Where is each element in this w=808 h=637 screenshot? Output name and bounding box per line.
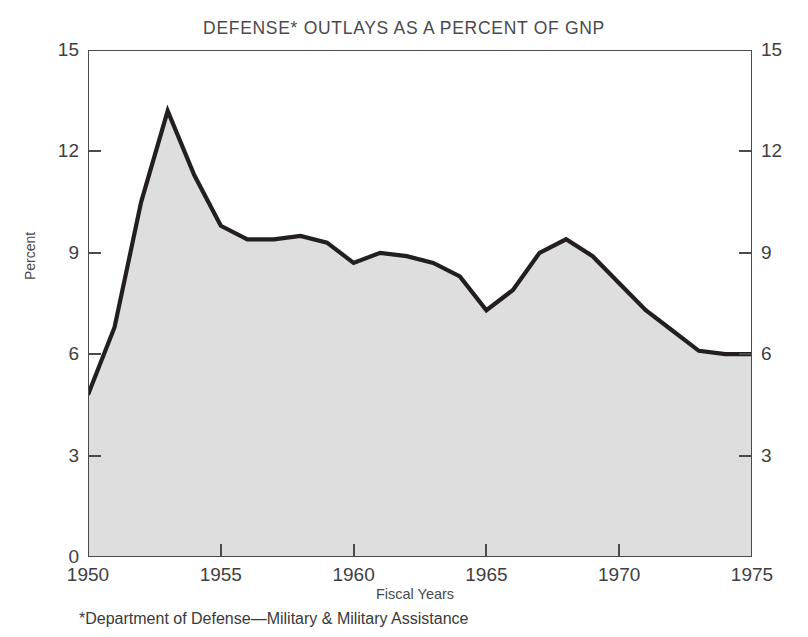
chart-title: DEFENSE* OUTLAYS AS A PERCENT OF GNP bbox=[0, 18, 808, 39]
y-axis-label-right: 3 bbox=[761, 445, 772, 467]
area-series-plot bbox=[88, 50, 752, 557]
plot-area: 03691215 3691215 19501955196019651970197… bbox=[88, 50, 752, 557]
x-axis-label: 1960 bbox=[332, 564, 374, 586]
x-axis-title: Fiscal Years bbox=[0, 586, 808, 602]
x-tick-1955 bbox=[220, 544, 222, 557]
y-tick-left-3 bbox=[88, 455, 101, 457]
y-axis-label-left: 15 bbox=[58, 39, 79, 61]
y-axis-label-left: 3 bbox=[68, 445, 79, 467]
y-tick-left-12 bbox=[88, 150, 101, 152]
x-tick-1970 bbox=[618, 544, 620, 557]
y-axis-label-right: 12 bbox=[761, 140, 782, 162]
area-fill-region bbox=[88, 111, 752, 557]
x-tick-1960 bbox=[353, 544, 355, 557]
x-axis-label: 1965 bbox=[465, 564, 507, 586]
x-axis-label: 1975 bbox=[731, 564, 773, 586]
chart-figure: DEFENSE* OUTLAYS AS A PERCENT OF GNP 036… bbox=[0, 0, 808, 637]
y-tick-right-3 bbox=[739, 455, 752, 457]
chart-footnote: *Department of Defense—Military & Milita… bbox=[79, 610, 468, 628]
y-tick-left-6 bbox=[88, 353, 101, 355]
x-tick-1965 bbox=[485, 544, 487, 557]
y-tick-left-9 bbox=[88, 252, 101, 254]
y-axis-label-left: 12 bbox=[58, 140, 79, 162]
x-axis-label: 1955 bbox=[200, 564, 242, 586]
y-axis-label-left: 9 bbox=[68, 242, 79, 264]
y-axis-label-right: 15 bbox=[761, 39, 782, 61]
x-axis-label: 1970 bbox=[598, 564, 640, 586]
y-tick-right-12 bbox=[739, 150, 752, 152]
y-tick-right-6 bbox=[739, 353, 752, 355]
y-axis-label-left: 6 bbox=[68, 343, 79, 365]
y-axis-label-right: 9 bbox=[761, 242, 772, 264]
x-axis-label: 1950 bbox=[67, 564, 109, 586]
y-tick-right-9 bbox=[739, 252, 752, 254]
y-axis-title: Percent bbox=[22, 232, 38, 280]
y-axis-label-right: 6 bbox=[761, 343, 772, 365]
